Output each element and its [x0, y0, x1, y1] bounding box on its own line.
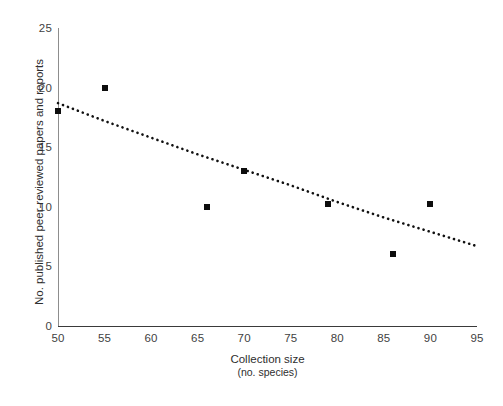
- y-tick-label-20: 20: [8, 82, 52, 94]
- data-point: [325, 201, 331, 207]
- y-tick-label-25: 25: [8, 22, 52, 34]
- data-point: [55, 108, 61, 114]
- x-axis-line: [58, 326, 477, 327]
- x-tick-label-70: 70: [224, 332, 264, 344]
- x-axis-title-sub: (no. species): [58, 366, 477, 379]
- plot-area: [58, 28, 477, 326]
- y-tick-label-5: 5: [8, 260, 52, 272]
- y-tick-label-15: 15: [8, 141, 52, 153]
- trendline: [58, 28, 477, 326]
- x-tick-label-65: 65: [178, 332, 218, 344]
- x-tick-label-60: 60: [131, 332, 171, 344]
- x-axis-title-main: Collection size: [230, 353, 304, 365]
- x-tick-label-90: 90: [410, 332, 450, 344]
- data-point: [427, 201, 433, 207]
- data-point: [102, 85, 108, 91]
- x-tick-label-85: 85: [364, 332, 404, 344]
- trendline-path: [58, 103, 477, 246]
- y-axis-title: No. published peer-reviewed papers and r…: [33, 47, 45, 317]
- x-axis-title: Collection size (no. species): [58, 352, 477, 380]
- data-point: [241, 168, 247, 174]
- x-tick-label-50: 50: [38, 332, 78, 344]
- x-tick-label-80: 80: [317, 332, 357, 344]
- x-tick-label-55: 55: [85, 332, 125, 344]
- y-tick-label-0: 0: [8, 320, 52, 332]
- x-tick-label-75: 75: [271, 332, 311, 344]
- x-tick-label-95: 95: [457, 332, 497, 344]
- data-point: [390, 251, 396, 257]
- y-tick-label-10: 10: [8, 201, 52, 213]
- chart-figure: 0510152025 50556065707580859095 No. publ…: [0, 0, 503, 406]
- data-point: [204, 204, 210, 210]
